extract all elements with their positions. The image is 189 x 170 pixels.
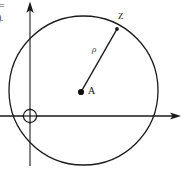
point-z-junction <box>115 27 119 31</box>
point-a-dot <box>78 89 84 95</box>
figure-canvas: Z A ρ = ). <box>0 0 189 170</box>
margin-text-fragment-top: = <box>0 1 4 11</box>
radius-segment-line <box>81 29 117 92</box>
radius-rho-label: ρ <box>92 45 96 54</box>
margin-text-fragment-bottom: ). <box>0 13 3 23</box>
point-a-label: A <box>88 86 95 96</box>
point-z-label: Z <box>118 12 124 21</box>
